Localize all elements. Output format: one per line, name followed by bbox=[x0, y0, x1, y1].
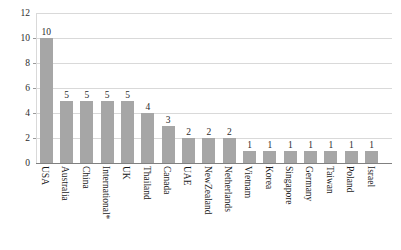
bar-slot: 1 bbox=[280, 13, 300, 163]
x-axis-tick-label: UK bbox=[121, 166, 131, 180]
x-label-slot: China bbox=[77, 165, 97, 250]
y-tick-label-0: 0 bbox=[4, 159, 30, 169]
x-label-slot: UAE bbox=[178, 165, 198, 250]
x-axis-tick-label: Canada bbox=[162, 166, 172, 195]
bar-value-label: 1 bbox=[349, 140, 354, 151]
x-label-slot: Korea bbox=[260, 165, 280, 250]
y-tick-label-8: 8 bbox=[4, 59, 30, 69]
x-axis-tick-label: Australia bbox=[60, 166, 70, 201]
bar-slot: 10 bbox=[36, 13, 56, 163]
bar-value-label: 2 bbox=[207, 127, 212, 138]
bar[interactable]: 1 bbox=[324, 151, 337, 164]
bar-slot: 1 bbox=[321, 13, 341, 163]
bar[interactable]: 5 bbox=[80, 101, 93, 164]
bar-slot: 1 bbox=[362, 13, 382, 163]
bar[interactable]: 1 bbox=[284, 151, 297, 164]
y-tick-label-12: 12 bbox=[4, 9, 30, 19]
bar[interactable]: 10 bbox=[40, 38, 53, 163]
bar-value-label: 5 bbox=[125, 90, 130, 101]
bar-value-label: 4 bbox=[146, 102, 151, 113]
bar-slot: 1 bbox=[239, 13, 259, 163]
bar-slot: 5 bbox=[77, 13, 97, 163]
x-axis-tick-label: Germany bbox=[304, 166, 314, 201]
bar[interactable]: 2 bbox=[202, 138, 215, 163]
bar-slot: 3 bbox=[158, 13, 178, 163]
bar[interactable]: 2 bbox=[223, 138, 236, 163]
y-tick-label-4: 4 bbox=[4, 109, 30, 119]
x-axis-tick-label: Singapore bbox=[284, 166, 294, 205]
x-axis-tick-label: UAE bbox=[182, 166, 192, 186]
x-axis-tick-label: Poland bbox=[345, 166, 355, 192]
x-label-slot: Thailand bbox=[138, 165, 158, 250]
bar-slot: 2 bbox=[219, 13, 239, 163]
bar-value-label: 1 bbox=[329, 140, 334, 151]
bar[interactable]: 5 bbox=[60, 101, 73, 164]
x-label-slot: USA bbox=[36, 165, 56, 250]
x-axis-tick-label: NewZealand bbox=[202, 166, 212, 215]
bar[interactable]: 1 bbox=[304, 151, 317, 164]
x-label-slot: Taiwan bbox=[321, 165, 341, 250]
bar-slot: 4 bbox=[138, 13, 158, 163]
x-axis-tick-label: USA bbox=[40, 166, 50, 185]
x-axis-tick-label: Taiwan bbox=[324, 166, 334, 194]
bar-value-label: 10 bbox=[41, 27, 51, 38]
y-tick-label-6: 6 bbox=[4, 84, 30, 94]
x-label-slot: Singapore bbox=[280, 165, 300, 250]
y-tick-label-2: 2 bbox=[4, 134, 30, 144]
bar-value-label: 1 bbox=[288, 140, 293, 151]
bar-value-label: 5 bbox=[84, 90, 89, 101]
bar-value-label: 2 bbox=[186, 127, 191, 138]
bar[interactable]: 2 bbox=[182, 138, 195, 163]
x-axis-tick-label: Thailand bbox=[141, 166, 151, 200]
bar-chart: 12 10 8 6 4 2 0 105555432221111111 USAAu… bbox=[0, 0, 401, 250]
bar-slot: 5 bbox=[97, 13, 117, 163]
bar-value-label: 5 bbox=[105, 90, 110, 101]
bar[interactable]: 1 bbox=[345, 151, 358, 164]
x-label-slot: UK bbox=[117, 165, 137, 250]
x-label-slot: Vietnam bbox=[239, 165, 259, 250]
x-axis-line bbox=[36, 163, 392, 164]
bar[interactable]: 1 bbox=[243, 151, 256, 164]
bar-series: 105555432221111111 bbox=[36, 13, 392, 163]
bar-slot: 5 bbox=[117, 13, 137, 163]
bar-slot: 5 bbox=[56, 13, 76, 163]
bar-value-label: 1 bbox=[369, 140, 374, 151]
x-label-slot: International* bbox=[97, 165, 117, 250]
bar-value-label: 2 bbox=[227, 127, 232, 138]
x-label-slot: Germany bbox=[300, 165, 320, 250]
x-label-slot: Israel bbox=[362, 165, 382, 250]
bar-slot: 1 bbox=[341, 13, 361, 163]
bar-value-label: 1 bbox=[247, 140, 252, 151]
x-label-slot: NewZealand bbox=[199, 165, 219, 250]
y-tick-label-10: 10 bbox=[4, 34, 30, 44]
bar-slot: 2 bbox=[178, 13, 198, 163]
bar-slot: 1 bbox=[300, 13, 320, 163]
x-label-slot: Netherlands bbox=[219, 165, 239, 250]
x-axis-labels: USAAustraliaChinaInternational*UKThailan… bbox=[36, 165, 392, 250]
bar[interactable]: 4 bbox=[141, 113, 154, 163]
bar-value-label: 5 bbox=[64, 90, 69, 101]
bar[interactable]: 3 bbox=[162, 126, 175, 164]
x-axis-tick-label: Vietnam bbox=[243, 166, 253, 198]
x-axis-tick-label: Korea bbox=[263, 166, 273, 189]
bar[interactable]: 5 bbox=[101, 101, 114, 164]
bar[interactable]: 1 bbox=[365, 151, 378, 164]
x-label-slot: Australia bbox=[56, 165, 76, 250]
bar-value-label: 3 bbox=[166, 115, 171, 126]
bar-slot: 1 bbox=[260, 13, 280, 163]
x-label-slot: Poland bbox=[341, 165, 361, 250]
x-axis-tick-label: Netherlands bbox=[223, 166, 233, 212]
bar-slot: 2 bbox=[199, 13, 219, 163]
bar-value-label: 1 bbox=[268, 140, 273, 151]
bar[interactable]: 1 bbox=[263, 151, 276, 164]
x-label-slot: Canada bbox=[158, 165, 178, 250]
x-axis-tick-label: China bbox=[80, 166, 90, 189]
x-axis-tick-label: International* bbox=[101, 166, 111, 219]
bar[interactable]: 5 bbox=[121, 101, 134, 164]
x-axis-tick-label: Israel bbox=[365, 166, 375, 187]
bar-value-label: 1 bbox=[308, 140, 313, 151]
